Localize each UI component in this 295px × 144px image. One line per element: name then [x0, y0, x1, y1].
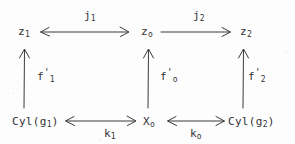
- edge-k0-arrow: [168, 117, 225, 126]
- edge-label-k0-symbol: k: [190, 127, 197, 140]
- edge-label-f0-prime: f'o: [160, 68, 177, 84]
- edge-label-k1-symbol: k: [104, 127, 111, 140]
- edge-f0-prime-arrow: [144, 49, 154, 108]
- edge-label-j2: j2: [193, 10, 204, 23]
- edge-label-f1-prime-subscript: 1: [50, 75, 55, 84]
- scan-speck: [286, 52, 287, 53]
- edge-f2-prime-arrow: [239, 49, 249, 108]
- edge-label-f0-prime-subscript: o: [173, 75, 178, 84]
- edge-j2-arrow: [161, 28, 231, 37]
- edge-label-j1: j1: [84, 10, 95, 23]
- edge-label-f2-prime-subscript: 2: [261, 75, 266, 84]
- edge-label-f2-prime-symbol: f: [248, 70, 255, 83]
- edge-label-k1-subscript: 1: [111, 132, 116, 141]
- scan-speck: [100, 140, 101, 141]
- edge-f1-prime-arrow: [20, 49, 30, 108]
- edge-k1-arrow: [66, 116, 137, 126]
- edge-label-j1-subscript: 1: [91, 14, 96, 23]
- edge-label-k1: k1: [104, 128, 115, 141]
- edge-label-j2-symbol: j: [193, 9, 200, 22]
- commutative-diagram: z1 zo z2 Cyl(g1) Xo Cyl(g2): [0, 0, 295, 144]
- edge-label-f2-prime: f'2: [248, 68, 265, 84]
- edge-label-f1-prime: f'1: [37, 68, 54, 84]
- edge-label-j1-symbol: j: [84, 9, 91, 22]
- edge-j1-arrow: [41, 27, 130, 37]
- edge-label-f1-prime-symbol: f: [37, 70, 44, 83]
- scan-speck: [13, 93, 14, 94]
- edge-label-k0: ko: [190, 128, 201, 141]
- edge-label-k0-subscript: o: [197, 132, 202, 141]
- edge-label-j2-subscript: 2: [200, 14, 205, 23]
- edge-label-f0-prime-symbol: f: [160, 70, 167, 83]
